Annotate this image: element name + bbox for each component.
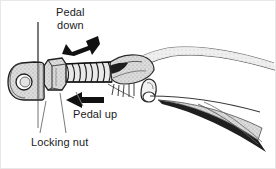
label-pedal-down-line2: down — [56, 19, 85, 32]
pedal-up-arrow — [66, 92, 104, 108]
clevis-eye-end — [8, 62, 44, 100]
figure-canvas: Pedal down Pedal up Locking nut — [0, 0, 276, 169]
pedal-down-arrow — [62, 36, 100, 56]
label-pedal-down: Pedal down — [56, 6, 85, 31]
leader-locking-nut-right — [60, 93, 66, 133]
leader-locking-nut-left — [40, 101, 46, 133]
label-pedal-down-line1: Pedal — [56, 6, 85, 19]
locking-nut — [44, 58, 66, 90]
label-locking-nut: Locking nut — [31, 136, 88, 149]
pedal-arm-underside — [150, 96, 266, 152]
threaded-rod — [64, 62, 112, 82]
pedal-arm — [106, 47, 275, 98]
pedal-pivot-pin — [141, 79, 156, 102]
label-pedal-up: Pedal up — [73, 108, 117, 121]
